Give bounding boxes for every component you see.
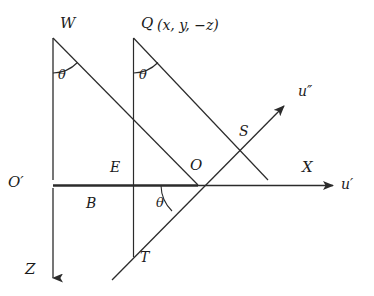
- label-point-o: O: [190, 158, 202, 173]
- label-point-w: W: [60, 16, 75, 31]
- label-axis-u-double-prime: u″: [298, 84, 312, 98]
- diagram-canvas: [0, 0, 374, 296]
- label-point-s: S: [239, 124, 249, 138]
- label-angle-theta-q: θ: [139, 68, 147, 81]
- label-axis-z: Z: [25, 262, 35, 277]
- label-q-coordinates: (x, y, −z): [157, 18, 219, 32]
- label-point-e: E: [110, 160, 120, 174]
- geometry-figure: W Q (x, y, −z) θ θ θ O′ E B O S T X u′ Z…: [0, 0, 374, 296]
- label-point-o-prime: O′: [8, 175, 24, 190]
- label-angle-theta-o: θ: [156, 196, 164, 209]
- label-point-t: T: [140, 250, 149, 264]
- axis-u-double-prime: [112, 106, 284, 280]
- label-axis-x: X: [302, 160, 313, 175]
- label-axis-u-prime: u′: [341, 177, 353, 191]
- line-w-to-o: [53, 38, 198, 185]
- label-point-q: Q: [141, 16, 153, 31]
- label-point-b: B: [86, 196, 96, 210]
- label-angle-theta-w: θ: [58, 68, 66, 81]
